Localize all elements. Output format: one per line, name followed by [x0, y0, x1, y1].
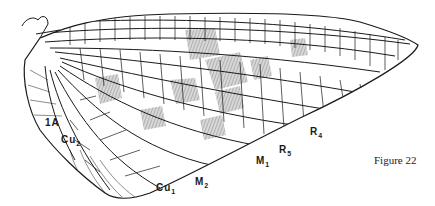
vein-label-cu2: Cu2 [61, 135, 80, 149]
vein-label-cu1: Cu1 [156, 183, 175, 197]
vein-label-r4: R4 [310, 127, 322, 141]
vein-label-m2: M2 [195, 177, 208, 191]
vein-label-1a: 1A [45, 118, 60, 128]
vein-label-m1: M1 [256, 156, 269, 170]
figure-caption: Figure 22 [374, 154, 416, 166]
vein-label-r5: R5 [279, 145, 291, 159]
wing-illustration [0, 0, 435, 206]
